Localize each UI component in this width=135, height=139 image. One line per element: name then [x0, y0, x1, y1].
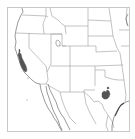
range-texas-outlier	[107, 87, 109, 89]
guadalupe-island	[27, 100, 28, 101]
channel-island	[27, 77, 28, 78]
state-borders	[16, 8, 129, 131]
range-texas	[102, 90, 110, 99]
range-california-north	[19, 49, 20, 52]
range-map	[0, 0, 135, 139]
gulf-coast-fringe	[115, 103, 124, 116]
great-salt-lake	[56, 40, 60, 46]
